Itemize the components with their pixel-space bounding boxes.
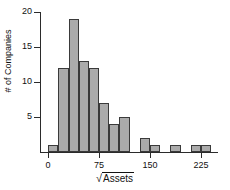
x-tick-150: [150, 153, 151, 158]
y-axis-line: [40, 12, 41, 153]
histogram-bar: [170, 145, 180, 152]
histogram-bar: [109, 124, 119, 152]
x-tick-0: [48, 153, 49, 158]
y-tick-5: [34, 117, 40, 118]
histogram-bar: [201, 145, 211, 152]
x-tick-75: [99, 153, 100, 158]
y-axis-title: # of Companies: [3, 6, 13, 116]
histogram-bar: [99, 103, 109, 152]
histogram-bar: [48, 145, 58, 152]
y-tick-label-15: 15: [16, 42, 32, 51]
x-tick-label-225: 225: [188, 160, 214, 170]
y-tick-15: [34, 47, 40, 48]
x-tick-label-150: 150: [137, 160, 163, 170]
y-tick-label-5: 5: [16, 112, 32, 121]
histogram-bar: [58, 68, 68, 152]
radicand-label: Assets: [102, 172, 134, 184]
histogram-bar: [69, 19, 79, 152]
x-axis-line: [40, 152, 218, 153]
x-tick-label-0: 0: [35, 160, 61, 170]
y-tick-label-20: 20: [16, 7, 32, 16]
y-tick-20: [34, 12, 40, 13]
histogram-bar: [119, 117, 129, 152]
histogram-bar: [140, 138, 150, 152]
x-tick-label-75: 75: [86, 160, 112, 170]
x-tick-225: [201, 153, 202, 158]
y-tick-10: [34, 82, 40, 83]
histogram-bar: [79, 61, 89, 152]
x-axis-title: √Assets: [0, 172, 230, 184]
histogram-figure: # of Companies 5101520 075150225 √Assets: [0, 0, 230, 190]
histogram-bar: [150, 145, 160, 152]
histogram-bar: [89, 68, 99, 152]
y-tick-label-10: 10: [16, 77, 32, 86]
plot-area: [49, 12, 217, 152]
histogram-bar: [191, 145, 201, 152]
